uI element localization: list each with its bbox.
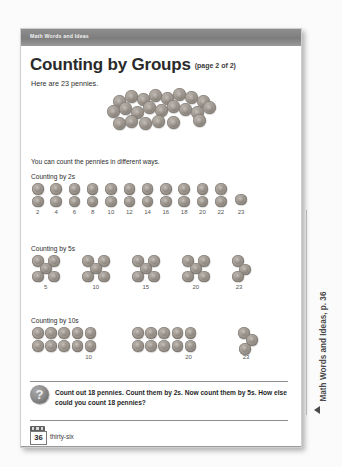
triangle-left-icon	[314, 406, 320, 414]
page-title: Counting by Groups(page 2 of 2)	[30, 55, 236, 75]
banner-label: Math Words and Ideas	[30, 33, 89, 39]
penny	[125, 90, 138, 103]
penny	[124, 183, 136, 195]
count-label: 6	[64, 209, 84, 215]
penny	[203, 101, 216, 114]
penny	[87, 183, 99, 195]
screenshot-root: Math Words and Ideas Counting by Groups(…	[0, 0, 342, 467]
penny	[197, 196, 209, 208]
penny	[105, 196, 117, 208]
page-title-text: Counting by Groups	[30, 55, 191, 74]
penny	[85, 327, 97, 339]
page-number-word: thirty-six	[50, 433, 74, 440]
penny	[197, 183, 209, 195]
penny	[149, 89, 162, 102]
count-label: 18	[174, 209, 194, 215]
side-tab-rule	[306, 210, 307, 415]
page-banner: Math Words and Ideas	[21, 29, 301, 46]
penny	[185, 340, 197, 352]
workbook-page: Math Words and Ideas Counting by Groups(…	[20, 28, 302, 448]
footer-rule	[21, 446, 301, 448]
section-heading-10s: Counting by 10s	[31, 317, 79, 324]
penny	[72, 327, 84, 339]
penny	[172, 327, 184, 339]
penny	[145, 340, 157, 352]
penny	[143, 101, 156, 114]
penny	[32, 340, 44, 352]
penny	[198, 271, 210, 283]
penny	[142, 183, 154, 195]
count-label: 12	[119, 209, 139, 215]
question-mark-icon: ?	[30, 385, 49, 404]
penny	[32, 327, 44, 339]
side-tab: Math Words and Ideas, p. 36	[306, 210, 336, 420]
count-label: 20	[178, 354, 200, 360]
count-label: 15	[135, 284, 157, 290]
penny	[179, 103, 192, 116]
penny	[178, 196, 190, 208]
penny	[132, 271, 144, 283]
penny	[98, 271, 110, 283]
count-label: 10	[78, 354, 100, 360]
count-label: 4	[46, 209, 66, 215]
penny	[72, 340, 84, 352]
side-tab-label: Math Words and Ideas, p. 36	[319, 212, 328, 402]
count-label: 23	[231, 209, 251, 215]
penny	[182, 271, 194, 283]
penny	[124, 196, 136, 208]
penny	[45, 327, 57, 339]
penny	[85, 340, 97, 352]
penny	[32, 183, 44, 195]
penny	[235, 194, 247, 206]
penny	[215, 183, 227, 195]
penny	[158, 340, 170, 352]
question-mark-glyph: ?	[30, 385, 49, 404]
count-label: 10	[85, 284, 107, 290]
penny	[193, 114, 206, 127]
penny	[32, 271, 44, 283]
question-text: Count out 18 pennies. Count them by 2s. …	[55, 388, 287, 407]
count-label: 23	[235, 354, 257, 360]
count-label: 22	[211, 209, 231, 215]
count-label: 5	[35, 284, 57, 290]
penny	[185, 327, 197, 339]
page-of-label: (page 2 of 2)	[195, 62, 236, 69]
penny	[215, 196, 227, 208]
penny	[113, 117, 126, 130]
count-label: 16	[156, 209, 176, 215]
penny	[158, 327, 170, 339]
penny	[232, 271, 244, 283]
penny	[178, 183, 190, 195]
penny	[87, 196, 99, 208]
penny	[173, 88, 186, 101]
page-number: 36	[30, 431, 47, 445]
penny	[32, 196, 44, 208]
penny	[139, 117, 152, 130]
penny	[132, 327, 144, 339]
count-label: 8	[83, 209, 103, 215]
count-label: 20	[192, 209, 212, 215]
penny	[58, 340, 70, 352]
section-heading-2s: Counting by 2s	[31, 173, 75, 180]
penny	[58, 327, 70, 339]
penny	[50, 183, 62, 195]
penny	[105, 183, 117, 195]
question-box: ? Count out 18 pennies. Count them by 2s…	[30, 381, 288, 421]
penny	[125, 115, 138, 128]
penny	[167, 116, 180, 129]
count-label: 23	[228, 284, 250, 290]
penny	[145, 327, 157, 339]
count-label: 2	[28, 209, 48, 215]
penny	[69, 183, 81, 195]
penny	[132, 340, 144, 352]
penny	[45, 340, 57, 352]
penny	[167, 100, 180, 113]
count-label: 14	[138, 209, 158, 215]
count-label: 10	[101, 209, 121, 215]
penny	[82, 271, 94, 283]
penny	[148, 271, 160, 283]
penny	[48, 271, 60, 283]
intro-pennies-line: Here are 23 pennies.	[31, 79, 98, 88]
penny	[69, 196, 81, 208]
penny	[172, 340, 184, 352]
